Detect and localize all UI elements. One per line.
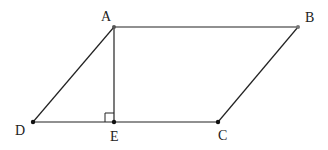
label-c: C — [218, 128, 227, 143]
label-e: E — [110, 129, 119, 144]
label-b: B — [305, 10, 314, 25]
point-c — [216, 120, 220, 124]
point-e — [112, 120, 116, 124]
side-da — [33, 27, 114, 122]
point-a — [112, 25, 116, 29]
label-a: A — [101, 9, 112, 24]
point-b — [296, 25, 300, 29]
point-d — [31, 120, 35, 124]
side-bc — [218, 27, 298, 122]
parallelogram-diagram: A B C D E — [0, 0, 328, 150]
label-d: D — [15, 123, 25, 138]
